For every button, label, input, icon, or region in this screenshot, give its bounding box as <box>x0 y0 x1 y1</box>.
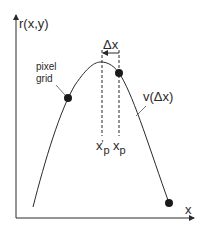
y-axis-label: r(x,y) <box>19 17 49 30</box>
curve-label-leader-line <box>136 106 146 116</box>
pixel-grid-annotation: pixel grid <box>36 61 57 85</box>
delta-x-label: Δx <box>103 38 118 51</box>
end-point <box>165 199 173 207</box>
pixel-grid-line1: pixel <box>36 61 57 73</box>
xp-base: x <box>113 138 120 153</box>
xp-subscript: p <box>120 144 126 156</box>
pixel-grid-point <box>64 94 72 102</box>
pixel-grid-line2: grid <box>36 73 57 85</box>
xp-point <box>115 69 123 77</box>
xp-prime-label: x'p <box>96 139 110 152</box>
xp-label: xp <box>113 139 126 152</box>
pixel-grid-leader-line <box>56 85 65 95</box>
diagram-canvas <box>0 0 207 232</box>
curve-label: v(Δx) <box>143 90 173 103</box>
x-axis-label: x <box>185 203 192 216</box>
xp-prime-subscript: p <box>103 144 109 156</box>
